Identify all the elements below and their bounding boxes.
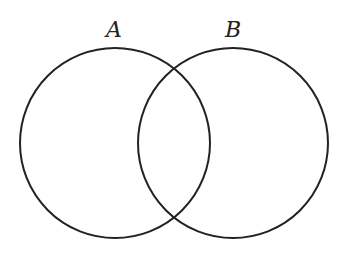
set-b-circle — [138, 48, 328, 238]
set-a-circle — [20, 48, 210, 238]
venn-diagram: A B — [0, 0, 343, 255]
set-b-label: B — [224, 17, 241, 42]
set-a-label: A — [104, 17, 122, 42]
